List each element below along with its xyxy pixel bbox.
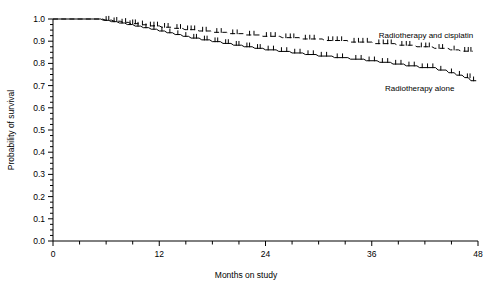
x-axis-tick-label: 0 xyxy=(51,249,56,259)
y-axis-tick-label: 0.3 xyxy=(33,169,45,179)
y-axis-tick-label: 0.8 xyxy=(33,58,45,68)
series-label-radiotherapy-alone: Radiotherapy alone xyxy=(385,84,455,93)
y-axis-tick-label: 0.1 xyxy=(33,214,45,224)
survival-chart-figure: 0122436480.00.10.20.30.40.50.60.70.80.91… xyxy=(0,0,494,289)
y-axis-tick-label: 0.4 xyxy=(33,147,45,157)
y-axis-tick-label: 0.7 xyxy=(33,81,45,91)
x-axis-tick-label: 24 xyxy=(261,249,271,259)
y-axis-tick-label: 0.2 xyxy=(33,192,45,202)
y-axis-tick-label: 0.5 xyxy=(33,125,45,135)
x-axis-tick-label: 36 xyxy=(367,249,377,259)
y-axis-tick-label: 1.0 xyxy=(33,14,45,24)
kaplan-meier-plot: 0122436480.00.10.20.30.40.50.60.70.80.91… xyxy=(0,0,494,289)
x-axis-tick-label: 48 xyxy=(473,249,483,259)
y-axis-tick-label: 0.9 xyxy=(33,36,45,46)
x-axis-tick-label: 12 xyxy=(155,249,165,259)
series-label-cisplatin: Radiotherapy and cisplatin xyxy=(379,31,473,40)
x-axis-title: Months on study xyxy=(215,270,278,280)
y-axis-tick-label: 0.0 xyxy=(33,236,45,246)
y-axis-tick-label: 0.6 xyxy=(33,103,45,113)
y-axis-title: Probability of survival xyxy=(6,90,16,170)
